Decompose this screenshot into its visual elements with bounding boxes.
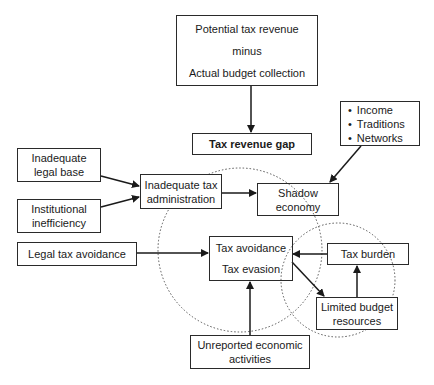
node-institutional-inefficiency: Institutional inefficiency — [17, 199, 101, 233]
node-text: Unreported economic — [197, 338, 302, 352]
node-inadequate-tax-administration: Inadequate tax administration — [140, 174, 222, 209]
node-text: Institutional — [31, 202, 87, 216]
list-item-traditions: Traditions — [348, 117, 405, 131]
node-text: minus — [232, 44, 261, 58]
arrow-institutional-to-admin — [101, 197, 139, 207]
node-tax-burden: Tax burden — [327, 243, 409, 265]
node-text: Limited budget — [321, 300, 393, 314]
node-limited-budget-resources: Limited budget resources — [316, 297, 398, 330]
arrow-factors-to-shadow — [330, 146, 361, 182]
node-text: Potential tax revenue — [195, 22, 298, 36]
node-text: Tax avoidance — [216, 241, 286, 255]
node-legal-tax-avoidance: Legal tax avoidance — [17, 242, 137, 266]
node-unreported-economic-activities: Unreported economic activities — [190, 335, 310, 369]
arrow-legalbase-to-admin — [101, 176, 139, 186]
node-text: administration — [147, 192, 215, 206]
node-text: economy — [276, 200, 321, 214]
node-text: resources — [333, 314, 381, 328]
node-text: Legal tax avoidance — [28, 247, 126, 261]
node-text: Tax evasion — [222, 262, 280, 276]
node-income-traditions-networks: Income Traditions Networks — [340, 101, 420, 146]
node-text: legal base — [34, 165, 84, 179]
node-text: Inadequate tax — [145, 178, 218, 192]
node-text: Tax burden — [341, 247, 395, 261]
node-text: Inadequate — [31, 151, 86, 165]
node-inadequate-legal-base: Inadequate legal base — [17, 148, 101, 182]
node-potential-minus-actual: Potential tax revenue minus Actual budge… — [176, 15, 318, 86]
list-item-income: Income — [348, 103, 393, 117]
node-shadow-economy: Shadow economy — [257, 183, 339, 216]
node-text: inefficiency — [32, 216, 86, 230]
arrow-evasion-to-limited — [292, 262, 324, 296]
node-tax-avoidance-evasion: Tax avoidance Tax evasion — [209, 236, 293, 281]
node-text: Shadow — [278, 186, 318, 200]
node-text: Actual budget collection — [189, 66, 305, 80]
node-tax-revenue-gap: Tax revenue gap — [192, 133, 312, 155]
node-text: Tax revenue gap — [209, 137, 295, 151]
node-text: activities — [229, 352, 271, 366]
list-item-networks: Networks — [348, 131, 403, 145]
